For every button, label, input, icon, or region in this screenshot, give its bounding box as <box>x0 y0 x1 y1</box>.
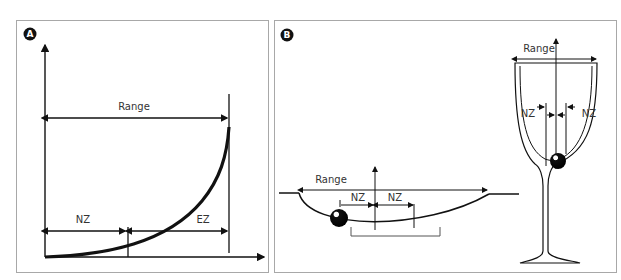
panel-b: B Range NZ NZ Range <box>274 20 617 273</box>
range-label: Range <box>118 101 150 112</box>
exponential-curve-diagram: A Range NZ EZ <box>17 21 270 274</box>
shallow-bowl: Range NZ NZ <box>279 167 519 236</box>
bowl-base <box>351 227 440 236</box>
bowl-and-glass-diagram: B Range NZ NZ Range <box>275 21 618 274</box>
svg-text:A: A <box>27 29 34 39</box>
badge-a: A <box>24 28 37 41</box>
glass-nz-right-label: NZ <box>582 108 596 119</box>
panel-a: A Range NZ EZ <box>16 20 269 273</box>
ez-label: EZ <box>196 214 209 225</box>
bowl-nz-left-label: NZ <box>351 192 365 203</box>
response-curve <box>45 127 229 257</box>
bowl-range-label: Range <box>315 174 347 185</box>
glass-ball <box>550 153 566 169</box>
badge-b: B <box>281 29 294 42</box>
wine-glass: Range NZ NZ <box>515 39 597 263</box>
bowl-nz-right-label: NZ <box>388 192 402 203</box>
svg-text:B: B <box>284 30 291 40</box>
glass-nz-left-label: NZ <box>521 108 535 119</box>
nz-label: NZ <box>76 214 90 225</box>
bowl-ball <box>330 209 348 227</box>
glass-range-label: Range <box>523 43 555 54</box>
